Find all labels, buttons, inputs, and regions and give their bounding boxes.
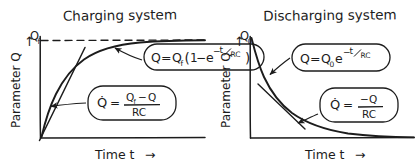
discharging-solution-e: e xyxy=(335,51,343,66)
charging-x-axis-label: Time t xyxy=(94,147,135,162)
charging-solution-callout[interactable]: Q = Q f ( 1 − e − t RC ) xyxy=(144,44,264,70)
discharging-x-axis-label-group: Time t → xyxy=(304,147,365,162)
discharging-x-axis-arrow-icon: → xyxy=(355,147,365,162)
charging-rate-num-minus: − xyxy=(138,91,147,103)
discharging-solution-equals: = xyxy=(310,51,320,66)
discharging-rate-callout[interactable]: Q̇ = − Q RC xyxy=(320,88,398,122)
charging-rate-den: RC xyxy=(132,106,146,118)
charging-solution-paren-open: ( xyxy=(185,50,190,66)
charging-solution-equals: = xyxy=(161,50,171,65)
charging-tangent-line xyxy=(40,48,86,141)
discharging-rate-num-minus: − xyxy=(360,93,369,105)
discharging-solution-callout[interactable]: Q = Q 0 e − t RC xyxy=(292,44,390,71)
charging-solution-leader xyxy=(115,48,142,60)
discharging-rate-num-q: Q xyxy=(369,93,377,105)
discharging-solution-leader xyxy=(270,58,290,75)
discharging-solution-exp-den: RC xyxy=(361,51,371,60)
charging-y-axis-label: Parameter Q xyxy=(9,52,23,128)
discharging-x-axis-label: Time t xyxy=(304,147,345,162)
rc-circuit-diagram: Charging system ↑ Parameter Q Q f Q = Q xyxy=(0,0,418,166)
discharging-title: Discharging system xyxy=(263,6,396,23)
discharging-solution-q0-sub: 0 xyxy=(330,60,335,69)
charging-x-axis-arrow-icon: → xyxy=(145,147,155,162)
discharging-solution-lhs: Q xyxy=(300,51,310,66)
charging-rate-lhs: Q̇ xyxy=(97,95,107,110)
charging-rate-callout[interactable]: Q̇ = Q f − Q RC xyxy=(88,86,176,120)
asymptote-label-sub: f xyxy=(38,37,41,46)
discharging-rate-equals: = xyxy=(343,98,353,112)
discharging-rate-lhs: Q̇ xyxy=(330,97,340,112)
discharging-rate-den: RC xyxy=(362,108,376,120)
discharging-tangent-line xyxy=(258,84,305,129)
discharging-solution-exp-num: t xyxy=(350,46,354,56)
charging-rate-num-q: Q xyxy=(148,91,156,103)
figure-canvas: Charging system ↑ Parameter Q Q f Q = Q xyxy=(0,0,418,166)
charging-solution-qf-sub: f xyxy=(181,59,184,68)
charging-rate-equals: = xyxy=(110,96,120,110)
charging-solution-lhs: Q xyxy=(151,50,161,65)
charging-solution-minus: − xyxy=(196,51,206,65)
discharging-y-axis-label: Parameter Q xyxy=(219,52,233,128)
charging-x-axis-label-group: Time t → xyxy=(94,147,155,162)
panel-discharging: Discharging system ↑ Parameter Q Q 0 Q =… xyxy=(219,6,414,162)
charging-title: Charging system xyxy=(63,6,177,24)
